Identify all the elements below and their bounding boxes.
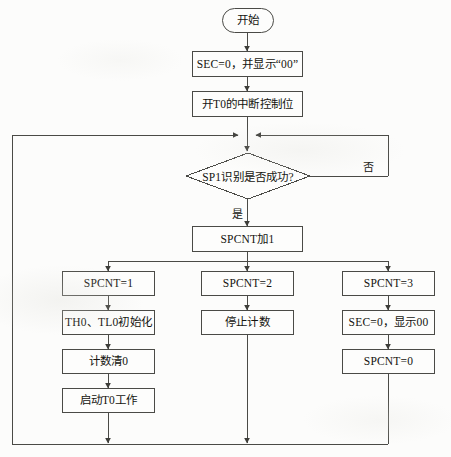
node-branch2-spcnt2[interactable]: SPCNT=2 [201,271,294,296]
edge-label-no: 否 [363,158,374,174]
node-branch1-start-t0[interactable]: 启动T0工作 [62,388,155,413]
node-branch2-stop-count[interactable]: 停止计数 [201,310,294,335]
node-spcnt-increment[interactable]: SPCNT加1 [192,226,303,252]
node-branch3-spcnt-zero[interactable]: SPCNT=0 [342,349,435,374]
node-branch3-spcnt3[interactable]: SPCNT=3 [342,271,435,296]
node-branch1-count-clear[interactable]: 计数清0 [62,349,155,374]
node-decision-sp1[interactable]: SP1识别是否成功? [188,166,308,186]
node-start[interactable]: 开始 [222,8,274,33]
node-enable-t0[interactable]: 开T0的中断控制位 [192,91,303,117]
node-init-sec[interactable]: SEC=0，并显示“00” [192,51,303,77]
flowchart-canvas: 开始 SEC=0，并显示“00” 开T0的中断控制位 SP1识别是否成功? 否 … [0,0,451,457]
node-branch3-sec-reset[interactable]: SEC=0，显示00 [342,310,435,335]
edge-label-yes: 是 [232,205,243,221]
node-branch1-th0-tl0-init[interactable]: TH0、TL0初始化 [62,310,155,335]
node-branch1-spcnt1[interactable]: SPCNT=1 [62,271,155,296]
